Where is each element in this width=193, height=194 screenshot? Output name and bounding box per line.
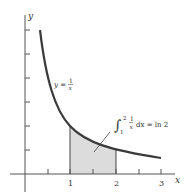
y-axis-label: y — [27, 11, 34, 21]
x-tick-label-2: 2 — [114, 179, 119, 188]
diagram-canvas: y x 1 2 3 y = 1 x ∫ 2 1 1 x dx = ln 2 — [0, 0, 193, 194]
svg-text:y =: y = — [53, 81, 66, 89]
function-label: y = 1 x — [53, 77, 73, 91]
svg-text:x: x — [130, 123, 134, 130]
x-axis-label: x — [175, 175, 180, 185]
x-tick-label-3: 3 — [159, 179, 164, 188]
svg-text:1: 1 — [130, 115, 134, 122]
y-ticks — [25, 30, 30, 150]
svg-text:dx = ln 2: dx = ln 2 — [136, 121, 168, 129]
svg-text:2: 2 — [123, 115, 127, 121]
svg-text:1: 1 — [120, 129, 124, 135]
integral-label: ∫ 2 1 1 x dx = ln 2 — [114, 115, 168, 135]
curve-reciprocal — [40, 30, 161, 158]
x-tick-label-1: 1 — [68, 179, 73, 188]
svg-text:1: 1 — [69, 77, 73, 84]
svg-text:x: x — [69, 84, 73, 91]
